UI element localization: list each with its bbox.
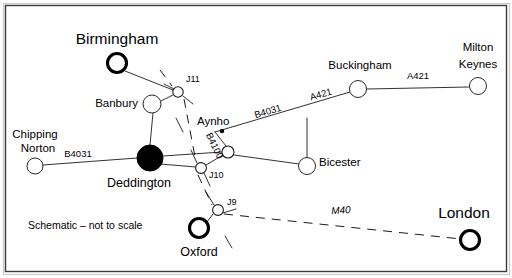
road-label-m40: M40 [331,204,352,216]
map-node-label-oxford: Oxford [180,245,218,259]
map-node-j11[interactable] [173,87,183,97]
map-node-label-banbury: Banbury [95,97,138,109]
map-node-milton-keynes[interactable] [470,78,487,95]
map-node-london[interactable] [461,231,480,250]
map-canvas: BirminghamBanburyJ11ChippingDeddingtonAy… [0,0,512,278]
map-node-bicester[interactable] [299,158,316,175]
map-node-label-milton-keynes-2: Keynes [459,58,498,70]
map-node-birmingham[interactable] [108,54,127,73]
map-node-banbury[interactable] [143,95,161,113]
map-node-chipping-norton[interactable] [27,158,43,174]
map-node-label-bicester: Bicester [319,156,361,168]
map-node-label-london: London [438,204,490,221]
map-node-label-j9: J9 [227,197,237,207]
map-node-oxford[interactable] [190,219,209,238]
map-node-label-birmingham: Birmingham [76,30,159,47]
map-node-j9[interactable] [213,205,224,216]
map-node-label-chipping-norton-2: Norton [21,142,56,154]
map-node-label-j11: J11 [186,74,200,84]
road-label-a421-east: A421 [407,70,429,81]
map-node-label-buckingham: Buckingham [328,59,391,71]
map-node-deddington[interactable] [137,145,163,171]
schematic-map-figure: BirminghamBanburyJ11ChippingDeddingtonAy… [0,0,512,278]
map-node-label-chipping-norton: Chipping [12,128,57,140]
road-label-b4031-west: B4031 [64,148,91,159]
legend-note-layer: Schematic – not to scale [28,219,143,231]
map-node-label-j10: J10 [209,170,224,180]
schematic-disclaimer-note: Schematic – not to scale [28,219,143,231]
map-node-label-deddington: Deddington [107,176,171,190]
arrow-marker-layer [220,129,224,133]
map-node-buckingham[interactable] [350,81,367,98]
map-node-label-aynho: Aynho [197,115,229,127]
arrow-marker-aynho-arrow-dot [220,129,224,133]
map-node-j10[interactable] [196,163,207,174]
map-node-label-milton-keynes: Milton [463,41,494,53]
